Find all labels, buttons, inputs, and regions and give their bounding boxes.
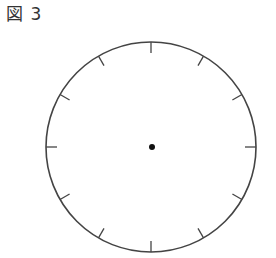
hour-tick: [232, 194, 242, 200]
hour-tick: [198, 56, 204, 66]
hour-tick: [60, 95, 70, 101]
hour-tick: [99, 56, 105, 66]
hour-tick: [99, 228, 105, 238]
hour-tick: [60, 194, 70, 200]
hour-tick: [198, 228, 204, 238]
blank-clock-face: [0, 0, 276, 258]
center-dot: [149, 144, 155, 150]
hour-tick: [232, 95, 242, 101]
